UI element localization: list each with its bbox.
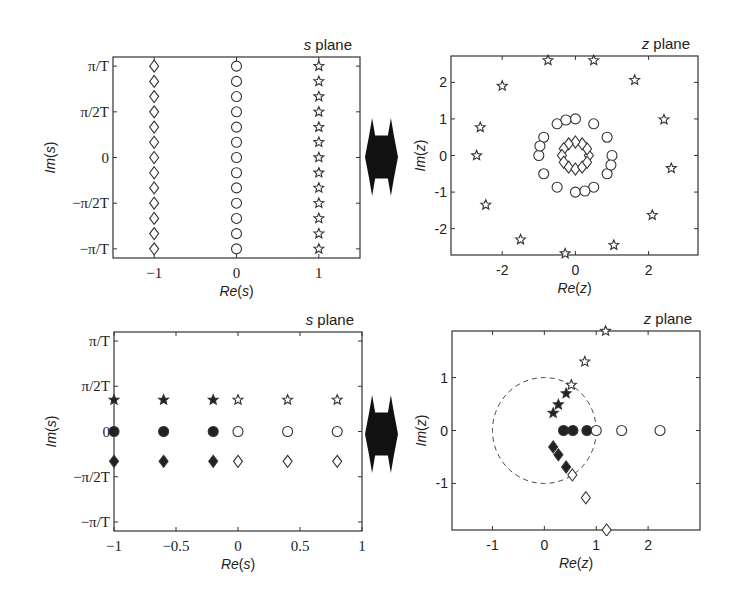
x-tick-label: 0 (234, 538, 242, 554)
star-marker (314, 91, 324, 100)
diamond-marker (602, 524, 611, 536)
x-tick-label: -2 (496, 262, 509, 278)
y-tick-label: −π/T (81, 514, 110, 530)
y-axis-label: Im(s) (42, 142, 58, 174)
plots-layer: −101π/Tπ/2T0−π/2T−π/Ts planeRe(s)Im(s)-2… (42, 35, 700, 572)
diamond-marker (568, 469, 577, 481)
y-tick-label: π/2T (82, 378, 110, 394)
subplot-title: s plane (304, 36, 352, 53)
diamond-marker (562, 461, 571, 473)
diamond-marker (110, 455, 119, 467)
circle-marker (535, 141, 545, 151)
subplot-z_top: -202210-1-2z planeRe(z)Im(z) (412, 35, 698, 296)
mapping-arrows (365, 118, 398, 473)
circle-marker (570, 187, 580, 197)
unit-circle (492, 378, 596, 484)
subplot-s_bottom: −1−0.500.51π/Tπ/2T0−π/2T−π/Ts planeRe(s)… (43, 311, 366, 572)
star-marker (314, 213, 324, 222)
diamond-marker (150, 197, 159, 209)
figure-canvas: −101π/Tπ/2T0−π/2T−π/Ts planeRe(s)Im(s)-2… (0, 0, 741, 607)
circle-marker (232, 198, 242, 208)
circle-marker (568, 426, 578, 436)
diamond-marker (150, 228, 159, 240)
y-tick-label: π/2T (81, 104, 109, 120)
star-marker (109, 395, 119, 404)
circle-marker (606, 160, 616, 170)
x-tick-label: 0.5 (291, 538, 310, 554)
diamond-marker (150, 182, 159, 194)
star-marker (516, 234, 526, 243)
x-tick-label: −1 (146, 265, 162, 281)
circle-marker (109, 427, 119, 437)
x-tick-label: 0 (572, 262, 580, 278)
double-arrow-icon (365, 118, 398, 196)
star-marker (548, 408, 558, 417)
star-marker (314, 198, 324, 207)
diamond-marker (581, 492, 590, 504)
star-marker (208, 395, 218, 404)
diamond-marker (150, 75, 159, 87)
star-marker (283, 395, 293, 404)
star-marker (332, 395, 342, 404)
diamond-marker (150, 136, 159, 148)
diamond-marker (234, 455, 243, 467)
circle-marker (570, 114, 580, 124)
circle-marker (591, 426, 601, 436)
star-marker (580, 357, 590, 366)
x-tick-label: −0.5 (162, 538, 189, 554)
circle-marker (332, 427, 342, 437)
circle-marker (617, 426, 627, 436)
circle-marker (208, 427, 218, 437)
x-axis-label: Re(s) (221, 556, 255, 572)
circle-marker (159, 427, 169, 437)
circle-marker (232, 153, 242, 163)
star-marker (233, 395, 243, 404)
star-marker (666, 163, 676, 172)
star-marker (314, 107, 324, 116)
y-tick-label: 0 (440, 423, 448, 439)
diamond-marker (150, 243, 159, 255)
x-tick-label: 2 (645, 262, 653, 278)
star-marker (543, 55, 553, 64)
y-tick-label: 2 (439, 74, 447, 90)
circle-marker (232, 183, 242, 193)
diamond-marker (150, 212, 159, 224)
circle-marker (607, 151, 617, 161)
y-tick-label: 1 (439, 111, 447, 127)
y-axis-label: Im(z) (412, 140, 428, 172)
diamond-marker (150, 121, 159, 133)
star-marker (561, 388, 571, 397)
y-tick-label: -1 (435, 184, 448, 200)
star-marker (472, 150, 482, 159)
x-tick-label: -1 (486, 537, 499, 553)
circle-marker (232, 61, 242, 71)
subplot-z_bottom: -101210-1z planeRe(z)Im(z) (413, 310, 700, 571)
y-tick-label: −π/2T (73, 469, 110, 485)
circle-marker (580, 186, 590, 196)
circle-marker (232, 137, 242, 147)
x-axis-label: Re(s) (219, 283, 253, 299)
y-tick-label: π/T (89, 333, 110, 349)
x-tick-label: 1 (358, 538, 366, 554)
diamond-marker (150, 106, 159, 118)
subplot-s_top: −101π/Tπ/2T0−π/2T−π/Ts planeRe(s)Im(s) (42, 36, 360, 299)
y-tick-label: π/T (88, 58, 109, 74)
circle-marker (232, 107, 242, 117)
star-marker (475, 122, 485, 131)
subplot-title: z plane (641, 35, 690, 52)
star-marker (589, 55, 599, 64)
circle-marker (232, 229, 242, 239)
y-tick-label: -2 (435, 221, 448, 237)
x-tick-label: 0 (233, 265, 241, 281)
circle-marker (283, 427, 293, 437)
circle-marker (232, 122, 242, 132)
x-tick-label: 0 (540, 537, 548, 553)
circle-marker (582, 426, 592, 436)
diamond-marker (150, 152, 159, 164)
star-marker (553, 399, 563, 408)
circle-marker (589, 119, 599, 129)
circle-marker (233, 427, 243, 437)
star-marker (630, 75, 640, 84)
y-axis-label: Im(z) (413, 415, 429, 447)
star-marker (314, 76, 324, 85)
